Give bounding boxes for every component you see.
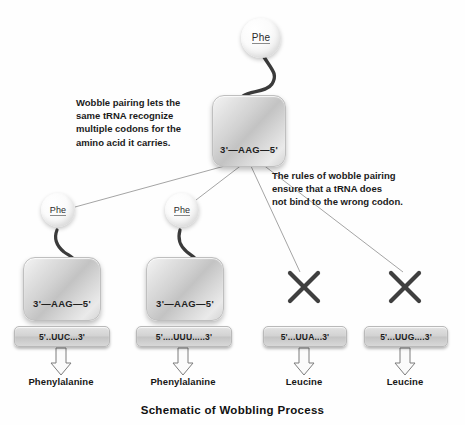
codon-label: 5'..UUC...3' <box>39 332 85 342</box>
x-mark-branch-4 <box>391 273 419 301</box>
codon-label: 5'...UUG....3' <box>380 332 432 342</box>
product-label-branch-3: Leucine <box>256 376 352 387</box>
acceptor-stem-parent <box>243 57 274 96</box>
note-left-line-4: amino acid it carries. <box>76 136 208 149</box>
note-left-wobble-pairing: Wobble pairing lets the same tRNA recogn… <box>76 96 208 149</box>
codon-bar-branch-2: 5'....UUU.....3' <box>136 326 232 347</box>
trna-body-parent: 3'—AAG—5' <box>212 95 286 167</box>
anticodon-label: 3'—AAG—5' <box>24 298 100 309</box>
codon-label: 5'...UUA...3' <box>281 332 330 342</box>
translation-arrow-branch-1 <box>51 348 71 375</box>
figure-caption: Schematic of Wobbling Process <box>0 404 465 416</box>
trna-body-branch-2: 3'—AAG—5' <box>146 257 224 321</box>
acceptor-stem-branch-2 <box>179 230 196 260</box>
translation-arrow-branch-3 <box>294 348 314 375</box>
product-label-branch-1: Phenylalanine <box>8 376 114 387</box>
note-right-wobble-rules: The rules of wobble pairing ensure that … <box>272 169 424 209</box>
connector-line-branch-2 <box>196 164 243 200</box>
acceptor-stem-branch-1 <box>56 230 74 260</box>
amino-acid-circle-branch-2: Phe <box>165 193 199 227</box>
product-label-branch-4: Leucine <box>357 376 453 387</box>
amino-acid-label: Phe <box>252 33 270 44</box>
x-mark-branch-3 <box>290 273 318 301</box>
note-right-line-3: not bind to the wrong codon. <box>272 195 424 208</box>
codon-label: 5'....UUU.....3' <box>156 332 212 342</box>
amino-acid-circle-branch-1: Phe <box>41 193 75 227</box>
note-left-line-3: multiple codons for the <box>76 122 208 135</box>
anticodon-label: 3'—AAG—5' <box>213 144 285 155</box>
codon-bar-branch-3: 5'...UUA...3' <box>263 326 347 347</box>
note-right-line-1: The rules of wobble pairing <box>272 169 424 182</box>
amino-acid-label: Phe <box>50 205 67 216</box>
connector-line-branch-1 <box>75 164 232 207</box>
codon-bar-branch-4: 5'...UUG....3' <box>364 326 448 347</box>
trna-body-branch-1: 3'—AAG—5' <box>23 257 101 321</box>
amino-acid-label: Phe <box>174 205 191 216</box>
translation-arrow-branch-4 <box>395 348 415 375</box>
note-left-line-2: same tRNA recognize <box>76 109 208 122</box>
wobble-diagram-figure: Phe 3'—AAG—5' Wobble pairing lets the sa… <box>0 0 465 425</box>
anticodon-label: 3'—AAG—5' <box>147 298 223 309</box>
translation-arrow-branch-2 <box>173 348 193 375</box>
codon-bar-branch-1: 5'..UUC...3' <box>14 326 110 347</box>
note-right-line-2: ensure that a tRNA does <box>272 182 424 195</box>
note-left-line-1: Wobble pairing lets the <box>76 96 208 109</box>
product-label-branch-2: Phenylalanine <box>130 376 236 387</box>
amino-acid-circle-parent: Phe <box>241 18 281 58</box>
